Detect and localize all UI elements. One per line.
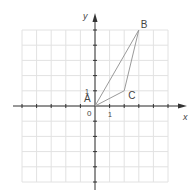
x-axis-label: x [182,112,188,122]
point-label-c: C [128,90,135,101]
origin-label: 0 [87,109,92,118]
axes [13,13,187,190]
coordinate-diagram: x y 0 1 1 A B C [0,0,195,193]
point-label-a: A [84,93,91,104]
y-axis-label: y [82,11,88,21]
x-axis-arrow-icon [178,104,187,109]
x-unit-label: 1 [108,111,112,118]
y-axis-arrow-icon [93,13,98,22]
point-label-b: B [141,19,148,30]
